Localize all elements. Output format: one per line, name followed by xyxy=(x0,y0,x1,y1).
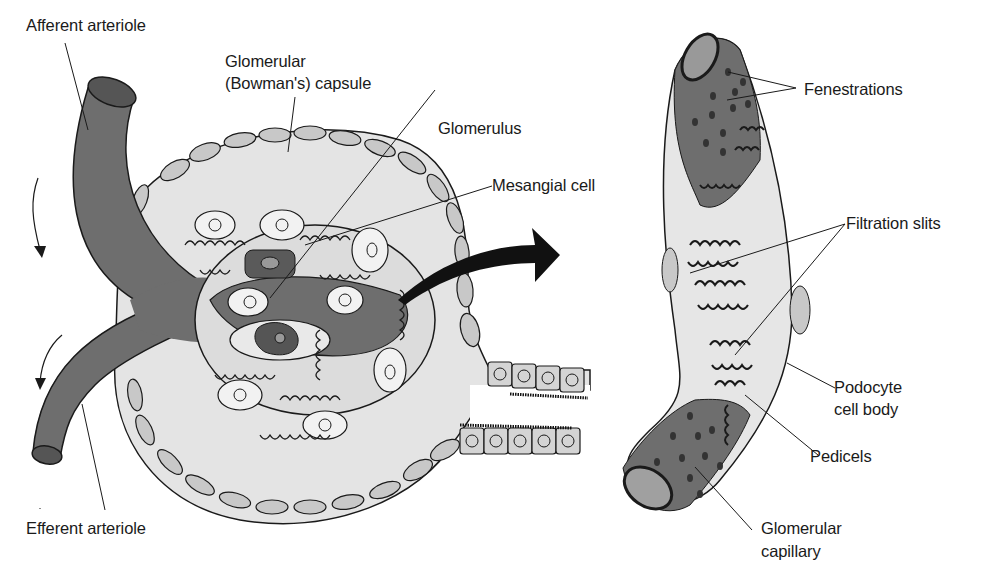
label-efferent-arteriole: Efferent arteriole xyxy=(26,519,146,538)
flow-arrowheads xyxy=(34,246,46,390)
label-capillary-line2: capillary xyxy=(761,542,821,561)
label-fenestrations: Fenestrations xyxy=(804,80,903,99)
renal-corpuscle-diagram: Afferent arteriole Glomerular (Bowman's)… xyxy=(0,0,981,581)
label-capillary-line1: Glomerular xyxy=(761,519,842,538)
label-mesangial-cell: Mesangial cell xyxy=(492,176,595,195)
label-glomerulus: Glomerulus xyxy=(438,119,521,138)
flow-arrows xyxy=(33,178,62,382)
label-capsule-line1: Glomerular xyxy=(225,52,306,71)
label-podocyte-line1: Podocyte xyxy=(834,378,902,397)
label-pedicels: Pedicels xyxy=(810,447,872,466)
glomerular-capillary xyxy=(616,28,810,518)
label-filtration-slits: Filtration slits xyxy=(846,214,941,233)
label-podocyte-line2: cell body xyxy=(834,400,898,419)
label-afferent-arteriole: Afferent arteriole xyxy=(26,16,146,35)
label-capsule-line2: (Bowman's) capsule xyxy=(225,74,371,93)
